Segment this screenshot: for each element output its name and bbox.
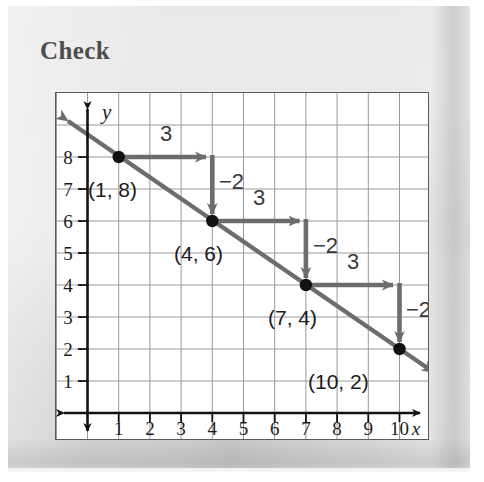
- coordinate-graph-panel: 1 2 3 4 5 6 7 8 1 2 3 4 5 6 7 8 9 10: [55, 92, 429, 440]
- x-tick-labels: 1 2 3 4 5 6 7 8 9 10: [114, 418, 409, 439]
- point-label-10-2: (10, 2): [308, 370, 369, 393]
- run-label-3: 3: [347, 249, 359, 274]
- x-tick-label-4: 4: [208, 418, 218, 439]
- y-tick-labels: 1 2 3 4 5 6 7 8: [63, 147, 73, 392]
- point-label-7-4: (7, 4): [268, 306, 317, 329]
- x-tick-label-5: 5: [239, 418, 249, 439]
- y-tick-label-6: 6: [63, 211, 73, 232]
- grid-lines: [56, 93, 428, 439]
- scanned-textbook-page: Check: [0, 0, 484, 482]
- point-label-1-8: (1, 8): [88, 178, 137, 201]
- y-tick-label-8: 8: [63, 147, 73, 168]
- y-tick-label-1: 1: [63, 371, 73, 392]
- y-tick-label-4: 4: [63, 275, 73, 296]
- x-tick-label-9: 9: [364, 418, 374, 439]
- coordinate-plane-svg: 1 2 3 4 5 6 7 8 1 2 3 4 5 6 7 8 9 10: [56, 93, 428, 439]
- point-1-8: [113, 151, 125, 163]
- x-tick-label-7: 7: [301, 418, 311, 439]
- rise-label-3: −2: [406, 297, 428, 322]
- y-axis-label: y: [100, 100, 112, 124]
- y-tick-label-7: 7: [63, 179, 73, 200]
- page-title: Check: [40, 37, 110, 65]
- point-label-4-6: (4, 6): [174, 242, 223, 265]
- point-4-6: [206, 215, 218, 227]
- x-tick-label-3: 3: [176, 418, 186, 439]
- run-label-2: 3: [253, 185, 265, 210]
- rise-label-1: −2: [219, 169, 244, 194]
- x-axis-label: x: [411, 418, 421, 439]
- x-tick-label-8: 8: [332, 418, 342, 439]
- point-10-2: [393, 343, 405, 355]
- x-tick-label-2: 2: [145, 418, 155, 439]
- y-tick-label-5: 5: [63, 243, 73, 264]
- point-7-4: [300, 279, 312, 291]
- x-tick-label-1: 1: [114, 418, 124, 439]
- run-label-1: 3: [160, 121, 172, 146]
- page-edge-shadow-bottom: [8, 438, 470, 472]
- y-tick-label-2: 2: [63, 339, 73, 360]
- x-tick-label-10: 10: [390, 418, 409, 439]
- page-edge-shadow-right: [430, 6, 470, 468]
- x-tick-label-6: 6: [270, 418, 280, 439]
- y-tick-label-3: 3: [63, 307, 73, 328]
- rise-label-2: −2: [313, 233, 338, 258]
